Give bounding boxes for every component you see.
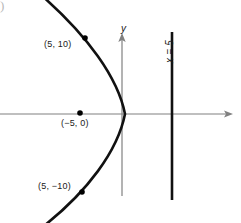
vertex-label: (−5, 0): [61, 118, 89, 128]
marker-point-lower: [79, 189, 85, 195]
corner-artifact: ): [0, 0, 4, 14]
vertical-line-label: x = 5: [164, 40, 175, 63]
y-axis-label: y: [121, 23, 126, 34]
point-label-upper: (5, 10): [44, 39, 71, 49]
marker-point-upper: [82, 35, 88, 41]
marker-vertex: [77, 110, 83, 116]
point-label-lower: (5, −10): [38, 181, 71, 191]
parabola-figure: (5, 10) (5, −10) (−5, 0) y x = 5 ): [0, 0, 241, 223]
